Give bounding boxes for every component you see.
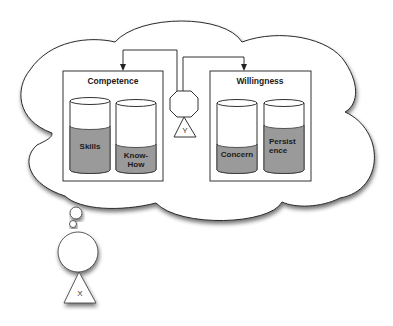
person-x-head [58,232,98,272]
competence-group: Competence Skills Know- How [63,71,163,181]
willingness-title: Willingness [236,76,283,86]
person-y-label: Y [182,126,188,135]
person-y-head-octagon [170,91,198,117]
know-how-label-line2: How [128,160,146,169]
skills-cylinder: Skills [70,98,110,174]
thought-bubble-small [70,221,77,228]
concern-cylinder: Concern [217,100,257,174]
concern-label: Concern [221,150,254,159]
persistence-cylinder: Persist ence [264,100,304,174]
diagram-canvas: Y Competence Skills Know- How Willingnes… [0,0,393,326]
competence-title: Competence [87,76,138,86]
persistence-label-line1: Persist [269,137,296,146]
persistence-label-line2: ence [269,146,288,155]
willingness-group: Willingness Concern Persist ence [210,71,311,181]
know-how-label-line1: Know- [124,151,149,160]
person-x-body-triangle [64,272,96,303]
person-x-label: X [77,289,83,298]
thought-bubble-large [70,207,82,219]
know-how-cylinder: Know- How [116,100,156,174]
skills-label: Skills [80,142,101,151]
